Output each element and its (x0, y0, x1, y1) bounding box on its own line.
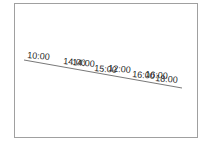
timeline-diagram: 10:0014:0014:0015:0012:0016:0016:0018:00 (0, 0, 208, 143)
time-label: 10:00 (27, 50, 50, 62)
time-label: 12:00 (108, 63, 131, 75)
time-label: 18:00 (155, 73, 178, 85)
timeline-labels: 10:0014:0014:0015:0012:0016:0016:0018:00 (27, 50, 178, 85)
time-label: 14:00 (72, 57, 95, 69)
